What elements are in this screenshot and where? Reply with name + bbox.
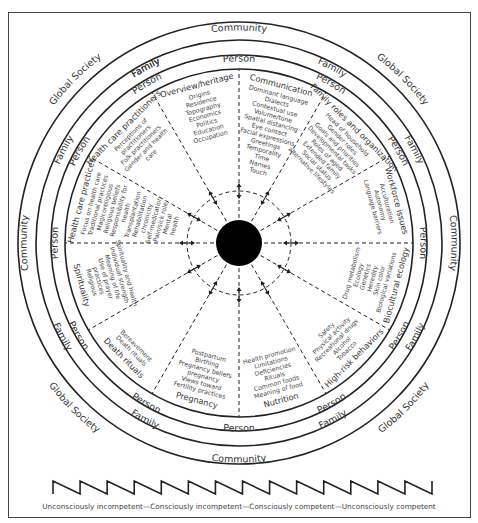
bidirectional-arrow-icon: [259, 190, 271, 206]
competence-continuum-caption: Unconsciously incompetent—Consciously in…: [0, 502, 478, 511]
bidirectional-arrow-icon: [276, 263, 292, 275]
domain-pregnancy: PregnancyFertility practicesViews toward…: [173, 347, 233, 410]
domain-death-rituals: Death ritualsDeath ritualsBereavement: [102, 328, 154, 380]
competence-zigzag-line: [53, 481, 432, 494]
community-label: Community: [210, 21, 267, 34]
global-society-label: Global Society: [375, 51, 432, 108]
domain-health-care-practices: Health care practicesFocus on health car…: [65, 157, 180, 244]
community-label: Community: [448, 214, 461, 271]
domain-overview-heritage: Overview/heritageOriginsResidenceTopogra…: [159, 70, 235, 145]
person-label: Person: [48, 226, 60, 259]
bidirectional-arrow-icon: [186, 263, 202, 275]
domain-biocultural-ecology: Biocultural ecologyBiological variations…: [341, 246, 411, 324]
domain-spirituality: SpiritualityReligiouspracticesUse of pra…: [71, 239, 139, 308]
community-label: Community: [17, 214, 30, 271]
person-label: Person: [222, 52, 255, 64]
domain-health-care-practitioners: Health care practitionersPerceptions ofp…: [84, 88, 169, 173]
person-label: Person: [418, 226, 430, 259]
bidirectional-arrow-icon: [207, 190, 219, 206]
bidirectional-arrow-icon: [259, 280, 271, 296]
center-unknown-phenomena: [216, 220, 262, 266]
bidirectional-arrow-icon: [186, 211, 202, 223]
domain-nutrition: NutritionMeaning of foodCommon foodsRitu…: [242, 345, 304, 410]
global-society-label: Global Society: [47, 50, 104, 107]
bidirectional-arrow-icon: [207, 280, 219, 296]
domain-workforce-issues: Workforce issuesAcculturationAutonomyLan…: [362, 166, 411, 235]
person-label: Person: [223, 422, 255, 434]
purnell-model-diagram: CommunityCommunityCommunityCommunityFami…: [0, 0, 478, 523]
community-label: Community: [211, 452, 267, 465]
bidirectional-arrow-icon: [276, 211, 292, 223]
global-society-label: Global Society: [47, 380, 103, 435]
global-society-label: Global Society: [376, 379, 431, 435]
